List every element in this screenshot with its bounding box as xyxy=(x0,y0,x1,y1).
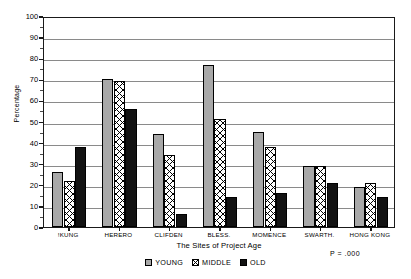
y-tick-label: 60 xyxy=(30,97,38,105)
y-tick-label: 10 xyxy=(30,203,38,211)
y-tick-label: 100 xyxy=(26,13,38,21)
bar-young-hong-kong xyxy=(354,187,365,227)
y-tick-label: 80 xyxy=(30,55,38,63)
y-tick-label: 90 xyxy=(30,34,38,42)
bar-old-clifden xyxy=(176,214,187,227)
bar-young-swarth xyxy=(303,166,314,227)
bar-middle-swarth xyxy=(315,166,326,227)
y-tick-label: 30 xyxy=(30,161,38,169)
legend-label: MIDDLE xyxy=(202,258,231,267)
x-tick-label: MOMENCE xyxy=(252,231,286,238)
bar-young-momence xyxy=(253,132,264,227)
legend-item-old: OLD xyxy=(240,258,266,267)
y-tick-label: 70 xyxy=(30,76,38,84)
plot-area xyxy=(43,17,395,228)
bar-middle-kung xyxy=(64,181,75,227)
x-tick-label: HONG KONG xyxy=(349,231,390,238)
bar-young-kung xyxy=(52,172,63,227)
x-tick-label: SWARTH. xyxy=(305,231,335,238)
x-tick-label: BLESS. xyxy=(207,231,230,238)
legend-item-young: YOUNG xyxy=(145,258,183,267)
bar-middle-clifden xyxy=(164,155,175,227)
p-value-annotation: P = .000 xyxy=(330,250,360,257)
bar-group xyxy=(153,18,187,227)
bar-group xyxy=(303,18,337,227)
x-tick-label: !KUNG xyxy=(58,231,79,238)
legend-swatch-old xyxy=(240,259,247,266)
chart-legend: YOUNGMIDDLEOLD xyxy=(0,258,411,267)
y-tick-label: 20 xyxy=(30,182,38,190)
bar-group xyxy=(52,18,86,227)
bar-old-kung xyxy=(75,147,86,227)
bar-middle-bless xyxy=(214,119,225,227)
legend-label: YOUNG xyxy=(155,258,183,267)
bar-group xyxy=(253,18,287,227)
bar-middle-herero xyxy=(114,81,125,227)
x-tick-label: HERERO xyxy=(104,231,132,238)
legend-label: OLD xyxy=(250,258,266,267)
bar-middle-hong-kong xyxy=(365,183,376,227)
bar-chart-figure: Percentage 0102030405060708090100 !KUNGH… xyxy=(0,0,411,279)
bar-young-bless xyxy=(203,65,214,227)
bar-middle-momence xyxy=(265,147,276,227)
y-tick-label: 50 xyxy=(30,119,38,127)
bar-old-momence xyxy=(276,193,287,227)
x-axis-title: The Sites of Project Age xyxy=(43,241,395,250)
y-tick-label: 40 xyxy=(30,140,38,148)
bar-old-herero xyxy=(125,109,136,227)
bar-group xyxy=(203,18,237,227)
bar-young-clifden xyxy=(153,134,164,227)
legend-item-middle: MIDDLE xyxy=(192,258,231,267)
x-tick-label: CLIFDEN xyxy=(155,231,183,238)
legend-swatch-young xyxy=(145,259,152,266)
bar-group xyxy=(354,18,388,227)
bar-old-hong-kong xyxy=(377,197,388,227)
y-axis-tick-labels: 0102030405060708090100 xyxy=(0,0,43,245)
legend-swatch-middle xyxy=(192,259,199,266)
bar-group xyxy=(102,18,136,227)
y-tick-label: 0 xyxy=(34,224,38,232)
bar-old-swarth xyxy=(327,183,338,227)
bar-old-bless xyxy=(226,197,237,227)
bar-young-herero xyxy=(102,79,113,227)
bar-series-container xyxy=(44,18,394,227)
